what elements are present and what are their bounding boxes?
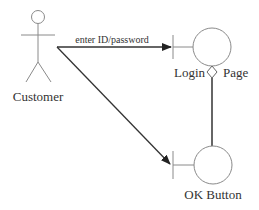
message-enter-credentials[interactable]: enter ID/password <box>57 34 171 47</box>
message-label: enter ID/password <box>75 34 149 45</box>
actor-customer[interactable]: Customer <box>13 11 64 105</box>
actor-right-leg <box>38 62 51 82</box>
message-arrow <box>57 47 170 164</box>
boundary-label: OK Button <box>184 187 242 202</box>
message-to-ok-button[interactable] <box>57 47 170 164</box>
boundary-label-right: Page <box>223 65 249 80</box>
association-login-ok[interactable] <box>207 66 217 146</box>
actor-label: Customer <box>13 89 64 104</box>
boundary-circle <box>193 28 231 66</box>
actor-left-leg <box>26 62 38 82</box>
aggregation-diamond-icon <box>207 66 217 78</box>
boundary-ok-button[interactable]: OK Button <box>173 146 242 202</box>
actor-head <box>32 11 45 24</box>
boundary-circle <box>194 146 232 184</box>
diagram-canvas: Customer enter ID/password Login Page OK… <box>0 0 259 210</box>
boundary-label-left: Login <box>174 65 206 80</box>
